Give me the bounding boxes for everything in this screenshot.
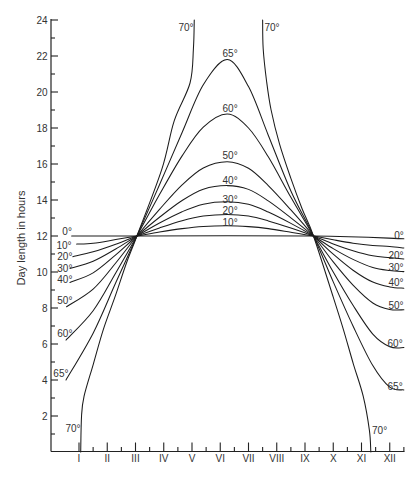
y-tick-label: 12	[36, 231, 48, 242]
y-tick-label: 18	[36, 123, 48, 134]
latitude-label-left: 40°	[57, 274, 72, 285]
y-tick-label: 4	[42, 375, 48, 386]
latitude-label-top: 70°	[179, 22, 194, 33]
latitude-label-top: 20°	[223, 205, 238, 216]
day-length-chart: 24681012141618202224 IIIIIIIVVVIVIIVIIII…	[0, 0, 419, 479]
month-label: XII	[384, 453, 396, 464]
latitude-label-right: 20°	[388, 250, 403, 261]
month-label: VI	[216, 453, 225, 464]
month-label: IX	[300, 453, 310, 464]
latitude-label-left: 10°	[56, 240, 71, 251]
chart-canvas: 24681012141618202224 IIIIIIIVVVIVIIVIIII…	[0, 0, 419, 479]
latitude-label-left: 20°	[57, 251, 72, 262]
month-label: III	[131, 453, 139, 464]
y-tick-label: 8	[42, 303, 48, 314]
y-tick-label: 22	[36, 51, 48, 62]
y-tick-label: 20	[36, 87, 48, 98]
month-label: X	[330, 453, 337, 464]
x-axis: IIIIIIIVVVIVIIVIIIIXXXIXII	[51, 443, 405, 465]
latitude-label-left: 70°	[66, 423, 81, 434]
x-axis-ticks: IIIIIIIVVVIVIIVIIIIXXXIXII	[78, 443, 404, 465]
latitude-label-right: 30°	[388, 262, 403, 273]
latitude-label-right: 50°	[388, 300, 403, 311]
latitude-label-right: 70°	[372, 425, 387, 436]
y-tick-label: 2	[42, 411, 48, 422]
latitude-label-left: 65°	[53, 368, 68, 379]
curve-lat-60	[66, 114, 404, 348]
y-tick-label: 24	[36, 15, 48, 26]
month-label: V	[189, 453, 196, 464]
month-label: VII	[242, 453, 254, 464]
y-tick-label: 16	[36, 159, 48, 170]
y-tick-label: 14	[36, 195, 48, 206]
month-label: II	[104, 453, 110, 464]
y-axis-title: Day length in hours	[15, 190, 27, 285]
latitude-label-top: 40°	[223, 175, 238, 186]
latitude-label-left: 50°	[57, 295, 72, 306]
latitude-label-top: 60°	[223, 103, 238, 114]
latitude-label-right: 40°	[388, 277, 403, 288]
curve-labels: 0°10°20°30°40°50°60°65°70°70°70°65°60°50…	[53, 22, 403, 436]
latitude-label-right: 65°	[388, 381, 403, 392]
latitude-label-right: 0°	[394, 230, 404, 241]
y-tick-label: 10	[36, 267, 48, 278]
latitude-label-left: 60°	[57, 328, 72, 339]
month-label: XI	[357, 453, 366, 464]
latitude-label-top: 50°	[223, 150, 238, 161]
latitude-label-top: 65°	[223, 48, 238, 59]
y-tick-label: 6	[42, 339, 48, 350]
latitude-label-top: 10°	[223, 217, 238, 228]
latitude-label-top: 30°	[223, 194, 238, 205]
latitude-label-right: 60°	[388, 338, 403, 349]
month-label: I	[78, 453, 81, 464]
month-label: VIII	[269, 453, 284, 464]
y-axis: 24681012141618202224	[36, 15, 58, 452]
latitude-label-top: 70°	[264, 22, 279, 33]
latitude-curves	[66, 20, 404, 452]
latitude-label-left: 30°	[57, 263, 72, 274]
latitude-label-left: 0°	[62, 226, 72, 237]
month-label: IV	[159, 453, 169, 464]
